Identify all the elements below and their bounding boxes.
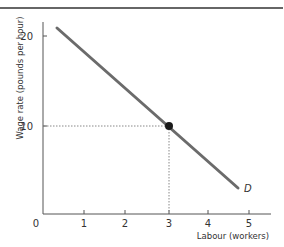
- x-axis-label: Labour (workers): [197, 231, 269, 241]
- y-axis-label: Wage rate (pounds per hour): [15, 16, 25, 139]
- labour-demand-chart: 20 10 0 1 2 3 4 5 Labour (workers) Wage …: [0, 0, 284, 247]
- highlight-point: [165, 122, 173, 130]
- x-tick-label-2: 2: [122, 218, 128, 229]
- origin-label: 0: [33, 218, 39, 229]
- x-tick-label-5: 5: [246, 218, 252, 229]
- demand-curve: [57, 28, 238, 188]
- x-tick-label-3: 3: [166, 218, 172, 229]
- x-tick-label-1: 1: [81, 218, 87, 229]
- x-tick-label-4: 4: [205, 218, 211, 229]
- curve-label-d: D: [244, 183, 252, 194]
